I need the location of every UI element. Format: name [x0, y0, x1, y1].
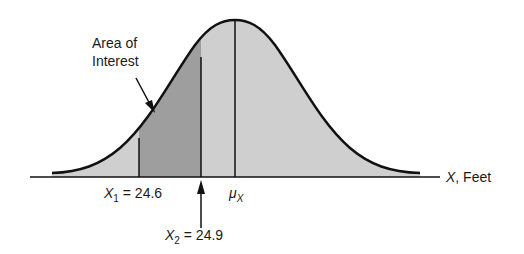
x2-value: = 24.9	[180, 227, 223, 243]
curve-fill	[30, 0, 450, 177]
x1-symbol: X	[103, 185, 114, 201]
axis-unit: , Feet	[455, 169, 491, 185]
area-of-interest-shading	[139, 0, 201, 177]
arrow-up-icon	[197, 180, 205, 194]
axis-variable: X	[445, 169, 456, 185]
normal-curve-diagram: Area of Interest X1 = 24.6 μX X2 = 24.9 …	[0, 0, 524, 254]
mean-label: μX	[228, 185, 244, 204]
x1-label: X1 = 24.6	[103, 185, 162, 204]
x2-label: X2 = 24.9	[164, 227, 223, 246]
arrow-down-icon	[145, 100, 155, 113]
light-shaded-area	[30, 0, 450, 177]
x2-symbol: X	[164, 227, 175, 243]
annotation-line1: Area of	[92, 35, 137, 51]
mean-symbol: μ	[228, 185, 237, 201]
axis-label: X, Feet	[445, 169, 491, 185]
x1-value: = 24.6	[119, 185, 162, 201]
mean-subscript: X	[236, 193, 244, 204]
annotation-line2: Interest	[92, 53, 139, 69]
